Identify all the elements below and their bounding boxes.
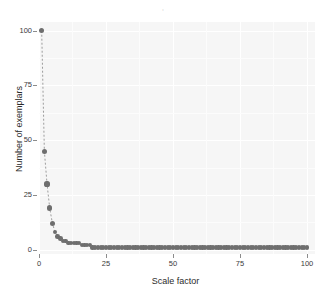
y-tick-mark [33,140,37,141]
data-point [42,149,47,154]
y-tick-mark [33,250,37,251]
x-tick-label: 0 [19,260,59,268]
x-axis-label: Scale factor [48,276,303,286]
y-tick-mark [33,195,37,196]
y-tick-label: 0 [0,246,32,254]
y-tick-label: 25 [0,191,32,199]
data-point [305,245,309,249]
data-point [39,28,44,33]
data-point [50,221,55,226]
x-tick-mark [173,254,174,258]
y-tick-label: 50 [0,136,32,144]
x-tick-label: 25 [86,260,126,268]
chart-figure: , Number of exemplars Scale factor 02550… [0,0,326,296]
data-point [47,205,52,210]
x-tick-label: 100 [287,260,326,268]
y-tick-mark [33,85,37,86]
title-area: , [0,0,326,20]
y-tick-label: 75 [0,81,32,89]
plot-panel [39,22,315,254]
x-tick-mark [39,254,40,258]
x-tick-mark [106,254,107,258]
x-tick-mark [307,254,308,258]
y-tick-label: 100 [0,27,32,35]
x-tick-label: 50 [153,260,193,268]
y-tick-mark [33,31,37,32]
x-tick-label: 75 [220,260,260,268]
page-title: , [0,4,326,12]
data-point [44,181,49,186]
data-points [39,22,315,254]
x-tick-mark [240,254,241,258]
